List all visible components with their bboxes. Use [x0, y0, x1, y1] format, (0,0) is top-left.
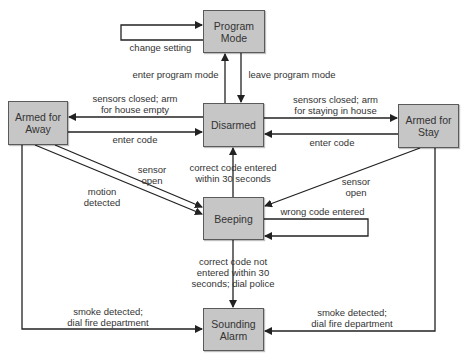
label-correct-code: correct code entered within 30 seconds: [182, 162, 284, 184]
label-stay-enter-code: enter code: [302, 137, 362, 148]
label-wrong-code: wrong code entered: [275, 206, 370, 217]
label-smoke-right: smoke detected; dial fire department: [302, 307, 402, 329]
state-label: Armed for Stay: [405, 114, 451, 138]
state-sounding-alarm: Sounding Alarm: [203, 308, 264, 351]
state-beeping: Beeping: [203, 197, 264, 240]
state-armed-stay: Armed for Stay: [398, 104, 459, 148]
label-away-enter-code: enter code: [105, 134, 165, 145]
state-label: Sounding Alarm: [211, 318, 255, 342]
state-disarmed: Disarmed: [203, 103, 264, 147]
state-armed-away: Armed for Away: [8, 101, 68, 145]
state-label: Program Mode: [214, 20, 254, 44]
label-leave-program-mode: leave program mode: [244, 69, 340, 80]
label-stay-sensor-open: sensor open: [336, 176, 376, 198]
label-motion-detected: motion detected: [78, 186, 126, 208]
state-program-mode: Program Mode: [203, 10, 265, 53]
state-label: Armed for Away: [15, 111, 61, 135]
arrow-smoke-left: [22, 145, 202, 329]
label-away-sensor-open: sensor open: [132, 164, 172, 186]
state-label: Disarmed: [211, 119, 256, 131]
label-enter-program-mode: enter program mode: [128, 69, 223, 80]
arrow-wrong-code: [264, 219, 368, 236]
arrow-change-setting: [121, 25, 203, 40]
label-change-setting: change setting: [118, 42, 203, 53]
label-arm-away: sensors closed; arm for house empty: [80, 93, 190, 115]
state-label: Beeping: [214, 213, 253, 225]
label-timeout: correct code not entered within 30 secon…: [184, 256, 282, 289]
label-smoke-left: smoke detected; dial fire department: [58, 306, 158, 328]
label-arm-stay: sensors closed; arm for staying in house: [278, 94, 393, 116]
